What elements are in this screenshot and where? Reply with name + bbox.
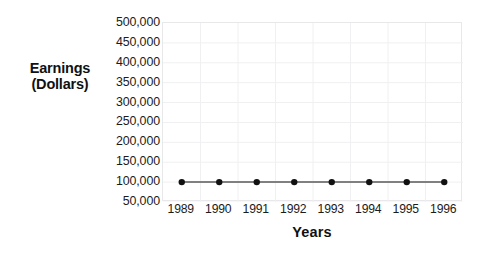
plot-canvas [163,23,463,202]
data-point-marker [291,179,297,185]
data-point-marker [179,179,185,185]
y-axis-tick-label: 300,000 [100,96,160,108]
x-axis-title: Years [162,224,462,240]
y-axis-tick-label: 450,000 [100,36,160,48]
data-point-marker [441,179,447,185]
line-chart: Earnings (Dollars) 500,000450,000400,000… [0,0,501,254]
data-point-marker [404,179,410,185]
y-axis-tick-label: 200,000 [100,135,160,147]
data-point-marker [216,179,222,185]
x-axis-tick-label: 1996 [421,202,465,216]
y-axis-tick-label: 150,000 [100,155,160,167]
data-point-marker [254,179,260,185]
y-axis-tick-label: 400,000 [100,56,160,68]
data-point-marker [366,179,372,185]
vertical-gridlines [201,23,426,202]
y-axis-title-line-1: Earnings [14,60,106,76]
plot-area [162,22,462,201]
y-axis-tick-label: 350,000 [100,76,160,88]
data-point-marker [329,179,335,185]
y-axis-title-line-2: (Dollars) [14,76,106,92]
x-axis-tick-labels: 19891990199119921993199419951996 [162,202,462,220]
y-axis-tick-label: 100,000 [100,175,160,187]
y-axis-title: Earnings (Dollars) [14,60,106,92]
y-axis-tick-label: 50,000 [100,195,160,207]
y-axis-tick-label: 500,000 [100,16,160,28]
y-axis-tick-label: 250,000 [100,115,160,127]
y-axis-tick-labels: 500,000450,000400,000350,000300,000250,0… [100,14,160,214]
